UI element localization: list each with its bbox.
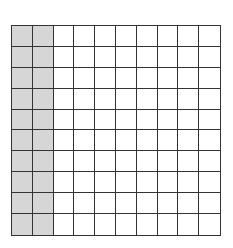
grid-cell (158, 68, 179, 89)
grid-cell (95, 193, 116, 214)
grid-cell (54, 110, 75, 131)
grid-cell (178, 172, 199, 193)
grid-cell (54, 172, 75, 193)
grid-cell (199, 47, 220, 68)
grid-cell (178, 151, 199, 172)
grid-cell (116, 214, 137, 235)
grid-cell (95, 26, 116, 47)
grid-cell (116, 193, 137, 214)
grid-cell (178, 68, 199, 89)
grid-cell (74, 172, 95, 193)
shaded-grid-cell (12, 26, 33, 47)
grid-cell (199, 89, 220, 110)
grid-cell (158, 130, 179, 151)
grid-cell (158, 26, 179, 47)
grid-cell (95, 47, 116, 68)
grid-cell (54, 151, 75, 172)
grid-cell (137, 214, 158, 235)
grid-cell (116, 110, 137, 131)
grid-cell (54, 68, 75, 89)
shaded-grid-cell (33, 110, 54, 131)
grid-cell (137, 172, 158, 193)
grid-cell (54, 26, 75, 47)
shaded-grid-cell (12, 193, 33, 214)
grid-cell (95, 130, 116, 151)
grid-cell (158, 172, 179, 193)
grid-cell (137, 151, 158, 172)
grid-cell (137, 110, 158, 131)
grid-cell (158, 110, 179, 131)
shaded-grid-cell (12, 110, 33, 131)
shaded-grid-cell (12, 130, 33, 151)
grid-cell (158, 214, 179, 235)
grid-cell (158, 89, 179, 110)
grid-cell (116, 172, 137, 193)
grid-cell (158, 193, 179, 214)
grid-cell (95, 89, 116, 110)
grid-cell (74, 47, 95, 68)
shaded-grid-cell (12, 47, 33, 68)
grid-cell (74, 193, 95, 214)
grid-cell (199, 130, 220, 151)
grid-cell (95, 172, 116, 193)
grid-cell (178, 89, 199, 110)
shaded-grid-cell (12, 214, 33, 235)
grid-cell (95, 68, 116, 89)
grid-cell (116, 26, 137, 47)
grid-cell (116, 68, 137, 89)
grid-cell (116, 47, 137, 68)
grid-cell (199, 68, 220, 89)
shaded-grid-cell (12, 151, 33, 172)
grid-cell (54, 89, 75, 110)
grid-cell (137, 26, 158, 47)
grid-cell (54, 47, 75, 68)
grid-cell (178, 110, 199, 131)
grid-cell (178, 26, 199, 47)
shaded-grid-cell (33, 68, 54, 89)
grid-cell (199, 172, 220, 193)
grid-cell (137, 47, 158, 68)
grid-cell (74, 151, 95, 172)
grid-cell (54, 214, 75, 235)
grid-cell (137, 193, 158, 214)
grid-cell (199, 151, 220, 172)
grid-cell (95, 151, 116, 172)
shaded-grid-cell (33, 214, 54, 235)
shaded-grid-cell (12, 172, 33, 193)
grid-cell (95, 214, 116, 235)
grid-cell (178, 193, 199, 214)
grid-cell (74, 214, 95, 235)
grid-cell (74, 68, 95, 89)
shaded-grid-cell (33, 26, 54, 47)
hundred-grid (11, 25, 221, 236)
grid-cell (54, 193, 75, 214)
grid-cell (199, 26, 220, 47)
grid-cell (116, 130, 137, 151)
grid-cell (54, 130, 75, 151)
grid-cell (158, 47, 179, 68)
grid-cell (178, 130, 199, 151)
grid-cell (199, 193, 220, 214)
grid-cell (137, 89, 158, 110)
shaded-grid-cell (12, 68, 33, 89)
shaded-grid-cell (33, 89, 54, 110)
shaded-grid-cell (33, 151, 54, 172)
grid-cell (178, 214, 199, 235)
grid-cell (137, 130, 158, 151)
grid-cell (116, 151, 137, 172)
shaded-grid-cell (33, 130, 54, 151)
grid-cell (95, 110, 116, 131)
grid-cell (74, 26, 95, 47)
grid-cell (199, 110, 220, 131)
grid-cell (137, 68, 158, 89)
shaded-grid-cell (12, 89, 33, 110)
grid-cell (116, 89, 137, 110)
grid-cell (74, 110, 95, 131)
shaded-grid-cell (33, 47, 54, 68)
grid-cell (199, 214, 220, 235)
grid-cell (178, 47, 199, 68)
shaded-grid-cell (33, 172, 54, 193)
grid-cell (158, 151, 179, 172)
grid-cell (74, 89, 95, 110)
grid-cell (74, 130, 95, 151)
